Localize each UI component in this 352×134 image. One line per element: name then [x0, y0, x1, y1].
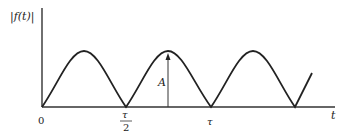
x-axis-label: t — [331, 109, 336, 122]
amplitude-label: A — [157, 76, 166, 89]
rectified-sine-diagram: |f(t)| t A 0 τ 2 τ — [0, 0, 352, 134]
arrowhead-icon — [166, 53, 171, 60]
waveform-curve — [42, 51, 312, 107]
tick-label-tau: τ — [207, 116, 213, 127]
tick-label-0: 0 — [38, 115, 44, 126]
tick-label-tau-half-den: 2 — [123, 122, 129, 133]
tick-label-tau-half-num: τ — [122, 109, 128, 120]
y-axis-label: |f(t)| — [10, 10, 35, 24]
